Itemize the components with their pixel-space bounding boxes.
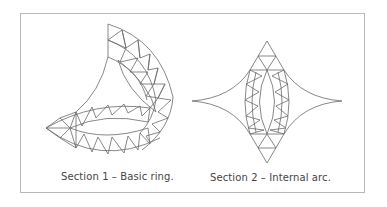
section-1-caption: Section 1 – Basic ring. bbox=[61, 171, 174, 182]
section-2-caption: Section 2 – Internal arc. bbox=[210, 172, 331, 183]
section-1-drawing bbox=[46, 24, 173, 154]
section-2-drawing bbox=[192, 41, 342, 163]
